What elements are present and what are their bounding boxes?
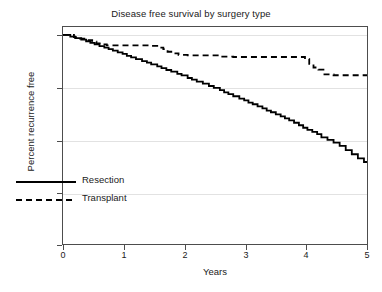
legend-item-resection[interactable]: Resection — [6, 174, 166, 190]
chart-title: Disease free survival by surgery type — [0, 8, 382, 19]
chart-legend: Resection Transplant — [6, 168, 166, 212]
legend-item-transplant[interactable]: Transplant — [6, 192, 166, 208]
legend-swatch-solid-icon — [16, 181, 76, 183]
y-tick-mark-0 — [57, 245, 62, 246]
x-tick-label-2: 2 — [170, 250, 200, 260]
legend-label-transplant: Transplant — [82, 192, 127, 203]
x-tick-label-5: 5 — [352, 250, 382, 260]
x-axis-label: Years — [62, 266, 368, 277]
survival-chart-figure: Disease free survival by surgery type Pe… — [0, 0, 382, 292]
plot-area — [62, 26, 368, 245]
x-tick-label-1: 1 — [109, 250, 139, 260]
legend-label-resection: Resection — [82, 174, 124, 185]
x-tick-label-4: 4 — [291, 250, 321, 260]
legend-swatch-dashed-icon — [16, 199, 76, 201]
x-tick-label-0: 0 — [48, 250, 78, 260]
curve-resection — [63, 35, 367, 163]
x-tick-label-3: 3 — [231, 250, 261, 260]
curve-transplant — [63, 35, 367, 75]
